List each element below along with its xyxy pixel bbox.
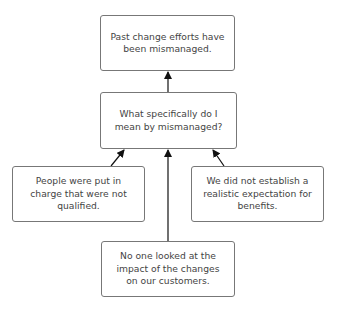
node-question-text: What specifically do I mean by mismanage… xyxy=(109,108,228,133)
node-bottom-text: No one looked at the impact of the chang… xyxy=(110,250,226,288)
node-bottom: No one looked at the impact of the chang… xyxy=(101,241,235,297)
node-left: People were put in charge that were not … xyxy=(12,166,145,222)
node-right: We did not establish a realistic expecta… xyxy=(191,166,324,222)
node-question: What specifically do I mean by mismanage… xyxy=(100,92,237,149)
node-root: Past change efforts have been mismanaged… xyxy=(100,15,235,71)
node-right-text: We did not establish a realistic expecta… xyxy=(200,175,315,213)
arrow-right-to-question xyxy=(213,150,224,166)
arrow-left-to-question xyxy=(111,150,124,166)
node-root-text: Past change efforts have been mismanaged… xyxy=(109,31,226,56)
node-left-text: People were put in charge that were not … xyxy=(21,175,136,213)
